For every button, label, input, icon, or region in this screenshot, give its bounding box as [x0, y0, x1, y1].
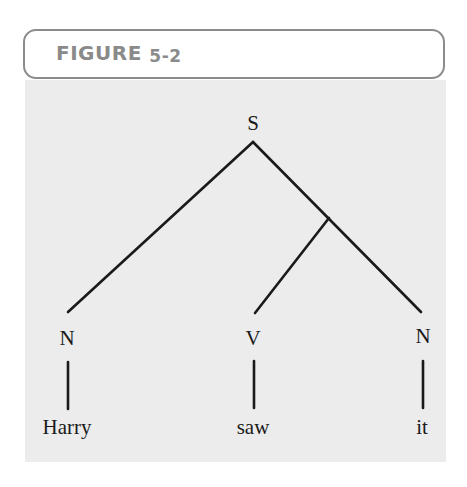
branch-vp-to-v [255, 218, 329, 313]
node-v: V [245, 327, 260, 349]
branch-s-to-n1 [68, 142, 253, 312]
word-it: it [416, 416, 428, 438]
word-saw: saw [237, 416, 270, 438]
branch-s-to-n2 [253, 142, 421, 312]
word-harry: Harry [43, 416, 92, 438]
node-s: S [247, 112, 259, 134]
node-n-right: N [415, 325, 430, 347]
node-n-left: N [59, 327, 74, 349]
syntax-tree-branches [0, 0, 467, 487]
